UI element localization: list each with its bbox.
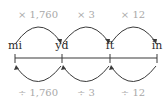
unit-in: in [152, 39, 163, 52]
unit-yd: yd [54, 39, 68, 52]
label-multiply-mi-yd: × 1,760 [18, 9, 58, 20]
arc-multiply-mi-yd [16, 27, 60, 43]
arc-divide-ft-yd [64, 66, 109, 82]
unit-ft: ft [106, 39, 115, 52]
label-divide-ft-yd: ÷ 3 [77, 87, 95, 98]
label-divide-in-ft: ÷ 12 [121, 87, 145, 98]
arc-multiply-ft-in [111, 27, 155, 43]
unit-mi: mi [8, 39, 22, 52]
arc-multiply-yd-ft [63, 27, 108, 43]
conversion-diagram: × 1,760 × 3 × 12 mi yd ft in ÷ 1,760 ÷ 3… [0, 0, 168, 102]
label-multiply-yd-ft: × 3 [77, 9, 95, 20]
arc-divide-in-ft [112, 66, 156, 82]
label-divide-yd-mi: ÷ 1,760 [18, 87, 58, 98]
arc-divide-yd-mi [17, 66, 61, 82]
label-multiply-ft-in: × 12 [121, 9, 145, 20]
